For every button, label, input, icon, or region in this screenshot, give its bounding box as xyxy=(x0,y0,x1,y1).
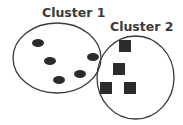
point-oval xyxy=(53,76,65,84)
cluster-1-points xyxy=(32,39,99,84)
point-oval xyxy=(74,70,86,78)
cluster-2-boundary xyxy=(97,36,174,119)
point-square xyxy=(113,63,125,75)
point-oval xyxy=(87,53,99,61)
point-square xyxy=(119,40,131,52)
diagram-canvas: Cluster 1 Cluster 2 xyxy=(0,0,183,125)
point-square xyxy=(100,82,112,94)
cluster-2-points xyxy=(100,40,136,94)
cluster-2-label: Cluster 2 xyxy=(110,19,173,34)
point-oval xyxy=(44,57,56,65)
point-oval xyxy=(32,39,44,47)
point-square xyxy=(124,82,136,94)
cluster-1-label: Cluster 1 xyxy=(42,5,105,20)
cluster-diagram: Cluster 1 Cluster 2 xyxy=(0,0,183,125)
